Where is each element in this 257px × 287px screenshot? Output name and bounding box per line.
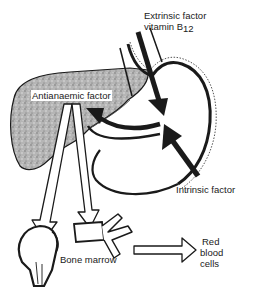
intrinsic-factor-label: Intrinsic factor bbox=[176, 184, 235, 195]
antianaemic-factor-label: Antianaemic factor bbox=[31, 90, 112, 101]
marrow-to-rbc-arrow bbox=[134, 238, 196, 262]
extrinsic-factor-label: Extrinsic factor vitamin B12 bbox=[144, 10, 206, 32]
extrinsic-factor-line2: vitamin B12 bbox=[144, 21, 206, 32]
b12-subscript: 12 bbox=[183, 23, 194, 34]
intrinsic-arrow bbox=[162, 124, 198, 176]
red-blood-cells-label: Red blood cells bbox=[200, 236, 223, 269]
diagram-canvas: Extrinsic factor vitamin B12 Antianaemic… bbox=[0, 0, 257, 287]
bone-marrow-label: Bone marrow bbox=[60, 254, 117, 265]
extrinsic-factor-line1: Extrinsic factor bbox=[144, 10, 206, 21]
vertebra-bone bbox=[74, 214, 132, 258]
femur-head-bone bbox=[19, 226, 58, 286]
